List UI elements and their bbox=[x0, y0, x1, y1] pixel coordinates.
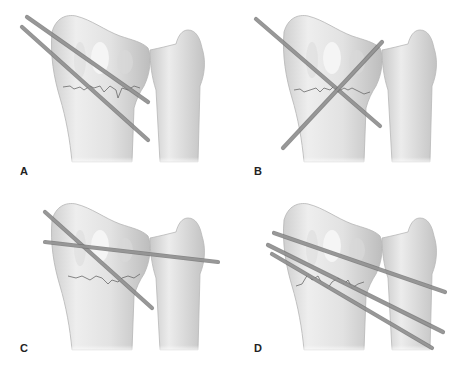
panel-label-c: C bbox=[20, 342, 28, 354]
panel-label-a: A bbox=[20, 165, 28, 177]
fracture-fixation-figure bbox=[0, 0, 464, 366]
panel-label-b: B bbox=[254, 165, 262, 177]
panel-c bbox=[40, 204, 220, 352]
panel-b bbox=[272, 16, 452, 164]
panel-label-d: D bbox=[254, 342, 262, 354]
panel-d bbox=[272, 204, 452, 352]
